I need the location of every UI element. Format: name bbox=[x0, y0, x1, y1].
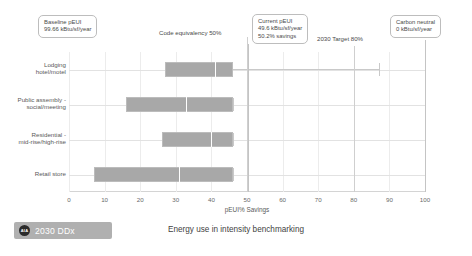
x-tick-label: 80 bbox=[350, 196, 357, 203]
x-tick-label: 10 bbox=[101, 196, 108, 203]
x-tick-label: 70 bbox=[315, 196, 322, 203]
box-iqr[interactable] bbox=[94, 167, 233, 182]
whisker-cap bbox=[379, 63, 380, 76]
box-iqr[interactable] bbox=[126, 97, 233, 112]
reference-line bbox=[248, 44, 249, 192]
median-marker bbox=[186, 97, 187, 112]
x-tick-label: 20 bbox=[137, 196, 144, 203]
category-label: Retail store bbox=[35, 170, 66, 178]
x-tick-label: 0 bbox=[67, 196, 70, 203]
chart-container: Baseline pEUI 99.66 kBtu/sf/year Code eq… bbox=[0, 0, 472, 256]
callout-baseline-peui: Baseline pEUI 99.66 kBtu/sf/year bbox=[38, 15, 97, 38]
median-marker bbox=[179, 167, 180, 182]
category-label: Lodging hotel/motel bbox=[36, 61, 66, 77]
x-tick-label: 60 bbox=[279, 196, 286, 203]
x-tick-label: 30 bbox=[172, 196, 179, 203]
median-marker bbox=[211, 132, 212, 147]
whisker-cap bbox=[233, 133, 234, 146]
label-code-equivalency: Code equivalency 50% bbox=[159, 29, 221, 36]
x-tick-label: 40 bbox=[208, 196, 215, 203]
chart-caption: Energy use in intensity benchmarking bbox=[0, 225, 472, 234]
callout-carbon-neutral: Carbon neutral 0 kBtu/sf/year bbox=[390, 15, 441, 38]
x-tick-label: 100 bbox=[420, 196, 430, 203]
whisker-cap bbox=[233, 168, 234, 181]
category-label: Residential - mid-rise/high-rise bbox=[19, 131, 66, 147]
label-2030-target: 2030 Target 80% bbox=[317, 35, 363, 42]
category-label: Public assembly - social/meeting bbox=[18, 96, 67, 112]
reference-line bbox=[354, 46, 355, 192]
box-iqr[interactable] bbox=[162, 132, 233, 147]
x-tick-label: 90 bbox=[386, 196, 393, 203]
whisker-cap bbox=[233, 98, 234, 111]
x-axis-label: pEUI% Savings bbox=[69, 206, 425, 213]
box-iqr[interactable] bbox=[165, 62, 233, 77]
x-tick-label: 50 bbox=[244, 196, 251, 203]
median-marker bbox=[215, 62, 216, 77]
x-axis-label-wrap: pEUI% Savings bbox=[69, 0, 425, 1]
reference-line bbox=[425, 40, 426, 192]
callout-current-peui: Current pEUI 49.6 kBtu/sf/year 50.2% sav… bbox=[252, 14, 308, 44]
y-axis-category-labels: Lodging hotel/motelPublic assembly - soc… bbox=[0, 52, 66, 192]
